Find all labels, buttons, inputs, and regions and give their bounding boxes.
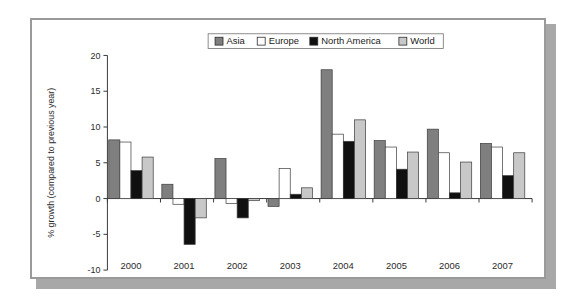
- bar-europe-2001: [173, 199, 184, 205]
- bar-world-2000: [142, 157, 153, 199]
- y-axis-label: % growth (compared to previous year): [46, 88, 56, 238]
- legend-swatch-asia: [215, 37, 223, 45]
- bar-world-2004: [354, 120, 365, 199]
- y-tick-label: 0: [96, 194, 101, 204]
- bar-north-america-2000: [131, 171, 142, 199]
- y-tick-label: 20: [91, 51, 101, 61]
- bar-asia-2001: [162, 184, 173, 198]
- bar-asia-2007: [480, 143, 491, 198]
- y-tick-label: -10: [88, 265, 101, 275]
- x-tick-label-2005: 2005: [386, 260, 407, 271]
- bar-north-america-2004: [343, 141, 354, 198]
- bar-europe-2003: [279, 168, 290, 198]
- bar-europe-2002: [226, 199, 237, 204]
- x-tick-label-2002: 2002: [227, 260, 248, 271]
- figure-frame: % growth (compared to previous year)-10-…: [30, 18, 546, 279]
- bar-europe-2007: [491, 147, 502, 199]
- x-tick-label-2000: 2000: [121, 260, 142, 271]
- legend-label-asia: Asia: [226, 35, 245, 46]
- legend-swatch-world: [399, 37, 407, 45]
- x-tick-label-2006: 2006: [439, 260, 460, 271]
- bar-world-2003: [301, 188, 312, 199]
- bar-chart-plot: % growth (compared to previous year)-10-…: [32, 20, 544, 277]
- bar-europe-2006: [438, 153, 449, 199]
- bar-world-2005: [408, 152, 419, 199]
- bar-north-america-2002: [237, 199, 248, 218]
- bar-world-2002: [248, 199, 259, 201]
- bar-north-america-2006: [449, 193, 460, 199]
- x-tick-label-2001: 2001: [174, 260, 195, 271]
- bar-europe-2005: [385, 147, 396, 199]
- x-tick-label-2007: 2007: [492, 260, 513, 271]
- bar-world-2006: [461, 162, 472, 198]
- bar-asia-2000: [109, 140, 120, 199]
- bar-asia-2002: [215, 158, 226, 198]
- bar-world-2007: [514, 153, 525, 199]
- legend-swatch-north-america: [310, 37, 318, 45]
- legend-label-world: World: [410, 35, 434, 46]
- legend-swatch-europe: [257, 37, 265, 45]
- bar-north-america-2007: [503, 176, 514, 199]
- chart-figure: % growth (compared to previous year)-10-…: [30, 18, 550, 283]
- y-tick-label: 10: [91, 122, 101, 132]
- bar-europe-2000: [120, 142, 131, 199]
- y-tick-label: -5: [93, 230, 101, 240]
- legend-label-europe: Europe: [269, 35, 299, 46]
- legend-label-north-america: North America: [321, 35, 381, 46]
- bar-asia-2004: [321, 70, 332, 199]
- bar-asia-2005: [374, 141, 385, 199]
- y-tick-label: 15: [91, 86, 101, 96]
- bar-north-america-2003: [290, 194, 301, 198]
- bar-north-america-2005: [396, 169, 407, 198]
- bar-north-america-2001: [184, 199, 195, 245]
- x-tick-label-2004: 2004: [333, 260, 354, 271]
- bar-europe-2004: [332, 134, 343, 198]
- y-tick-label: 5: [96, 158, 101, 168]
- x-tick-label-2003: 2003: [280, 260, 301, 271]
- bar-world-2001: [195, 199, 206, 218]
- bar-asia-2003: [268, 199, 279, 207]
- bar-asia-2006: [427, 129, 438, 198]
